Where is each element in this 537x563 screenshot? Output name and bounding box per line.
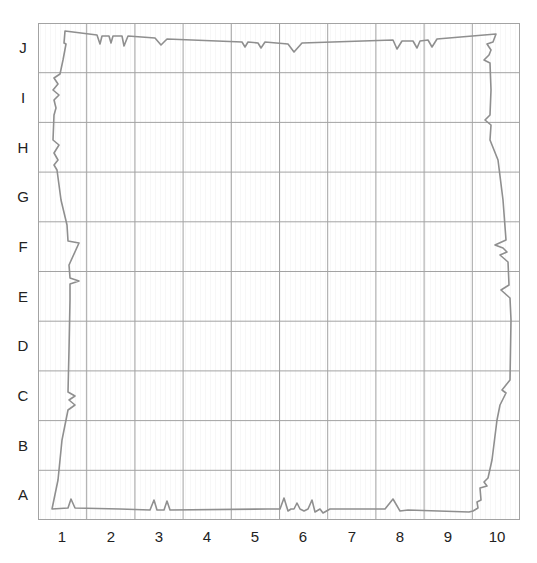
col-label-3: 3 xyxy=(144,528,174,546)
row-label-j: J xyxy=(8,39,38,57)
row-label-i: I xyxy=(8,89,38,107)
col-label-10: 10 xyxy=(482,528,512,546)
col-label-4: 4 xyxy=(192,528,222,546)
row-label-c: C xyxy=(8,387,38,405)
row-label-e: E xyxy=(8,288,38,306)
col-label-9: 9 xyxy=(433,528,463,546)
row-label-f: F xyxy=(8,238,38,256)
col-label-7: 7 xyxy=(337,528,367,546)
col-label-5: 5 xyxy=(240,528,270,546)
col-label-2: 2 xyxy=(96,528,126,546)
row-label-d: D xyxy=(8,337,38,355)
col-label-1: 1 xyxy=(47,528,77,546)
row-label-b: B xyxy=(8,437,38,455)
row-label-h: H xyxy=(8,139,38,157)
col-label-8: 8 xyxy=(385,528,415,546)
row-label-a: A xyxy=(8,486,38,504)
grid-svg xyxy=(0,0,537,563)
row-label-g: G xyxy=(8,188,38,206)
grid-map-board: J I H G F E D C B A 1 2 3 4 5 6 7 8 9 10 xyxy=(0,0,537,563)
col-label-6: 6 xyxy=(288,528,318,546)
